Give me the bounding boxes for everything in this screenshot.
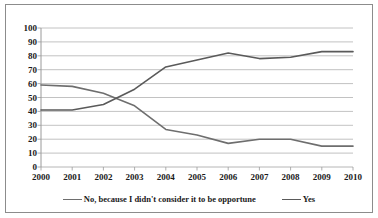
y-tick-label-20: 20 — [12, 135, 37, 144]
y-axis: 1009080706050403020100 — [12, 28, 37, 167]
x-tick-label-2006: 2006 — [219, 172, 237, 183]
data-series-group — [41, 28, 353, 167]
y-tick-label-50: 50 — [12, 93, 37, 102]
plot-area — [41, 28, 353, 167]
legend-label: No, because I didn't consider it to be o… — [84, 194, 256, 204]
x-tick-label-2005: 2005 — [188, 172, 206, 183]
y-tick-label-70: 70 — [12, 65, 37, 74]
y-tick-label-0: 0 — [12, 163, 37, 172]
x-tick-label-2001: 2001 — [63, 172, 81, 183]
legend-entry-0[interactable]: No, because I didn't consider it to be o… — [63, 194, 256, 204]
legend-entry-1[interactable]: Yes — [282, 194, 315, 204]
legend-label: Yes — [303, 194, 315, 204]
x-tick-label-2000: 2000 — [32, 172, 50, 183]
legend-line-icon — [282, 199, 301, 200]
x-tick-label-2003: 2003 — [126, 172, 144, 183]
x-tick-label-2007: 2007 — [250, 172, 268, 183]
y-tick-label-90: 90 — [12, 37, 37, 46]
series-line-1 — [41, 52, 353, 110]
y-tick-label-10: 10 — [12, 149, 37, 158]
x-tick-label-2008: 2008 — [282, 172, 300, 183]
y-tick-label-80: 80 — [12, 51, 37, 60]
chart-figure: 1009080706050403020100 20002001200220032… — [0, 0, 378, 218]
x-tick-label-2009: 2009 — [313, 172, 331, 183]
x-tick-label-2004: 2004 — [157, 172, 175, 183]
y-tick-label-30: 30 — [12, 121, 37, 130]
y-tick-label-60: 60 — [12, 79, 37, 88]
y-tick-label-100: 100 — [12, 24, 37, 33]
y-tick-label-40: 40 — [12, 107, 37, 116]
x-axis: 2000200120022003200420052006200720082009… — [41, 172, 353, 186]
x-tick-label-2010: 2010 — [344, 172, 362, 183]
x-tick-label-2002: 2002 — [94, 172, 112, 183]
series-line-0 — [41, 85, 353, 146]
legend-line-icon — [63, 199, 82, 200]
chart-legend: No, because I didn't consider it to be o… — [5, 191, 373, 207]
